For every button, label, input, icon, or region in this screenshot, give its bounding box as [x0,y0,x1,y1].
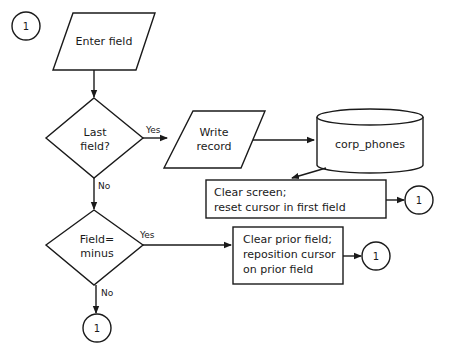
clear-screen-line1: Clear screen; [214,186,287,199]
last-field-line2: field? [80,140,110,153]
connector-end-label: 1 [94,323,100,334]
enter-field-node: Enter field [53,13,155,70]
edge-db-to-clear-screen [292,168,326,178]
last-field-line1: Last [84,126,108,139]
clear-prior-line3: on prior field [243,263,313,276]
connector-clear-screen-label: 1 [416,195,422,206]
write-record-line2: record [196,140,231,153]
clear-prior-line2: reposition cursor [243,248,336,261]
connector-clear-prior: 1 [362,242,390,270]
corp-phones-label: corp_phones [335,138,405,151]
connector-clear-screen: 1 [405,186,433,214]
flowchart-canvas: 1 Enter field Last field? Yes Write reco… [0,0,451,354]
connector-start: 1 [12,12,40,40]
write-record-node: Write record [164,111,265,168]
corp-phones-database: corp_phones [317,109,423,173]
field-minus-decision: Field= minus [46,210,143,285]
field-minus-line1: Field= [80,233,115,246]
clear-screen-process: Clear screen; reset cursor in first fiel… [206,180,386,218]
connector-clear-prior-label: 1 [373,251,379,262]
field-minus-line2: minus [80,247,114,260]
clear-prior-line1: Clear prior field; [243,233,332,246]
write-record-line1: Write [199,126,228,139]
connector-end: 1 [83,314,111,342]
field-minus-no-label: No [101,288,114,298]
last-field-yes-label: Yes [145,125,161,135]
clear-prior-process: Clear prior field; reposition cursor on … [233,227,343,284]
field-minus-yes-label: Yes [139,230,155,240]
enter-field-label: Enter field [76,35,133,48]
clear-screen-line2: reset cursor in first field [214,201,346,214]
last-field-decision: Last field? [46,98,143,178]
last-field-no-label: No [98,181,111,191]
connector-start-label: 1 [23,21,29,32]
